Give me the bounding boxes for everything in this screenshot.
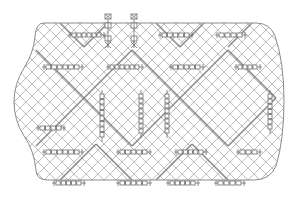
clip-marker [166,180,200,186]
clip-marker [42,149,84,155]
clip-marker [68,32,106,38]
mesh-panel-diagram [0,0,288,211]
clip-marker [52,180,86,186]
reinforcement-lines [36,23,276,180]
clip-marker [169,64,205,70]
horizontal-clips [36,32,262,186]
clip-marker [174,149,208,155]
top-connector [131,14,137,48]
top-connector [105,14,111,48]
clip-marker [116,180,152,186]
clip-marker [139,90,143,138]
clip-marker [214,180,246,186]
clip-marker [158,32,194,38]
clip-marker [42,64,84,70]
clip-marker [215,32,247,38]
clip-marker [165,90,169,138]
clip-marker [100,90,104,142]
clip-marker [268,90,272,134]
clip-marker [116,149,152,155]
clip-marker [106,64,144,70]
clip-marker [234,64,262,70]
